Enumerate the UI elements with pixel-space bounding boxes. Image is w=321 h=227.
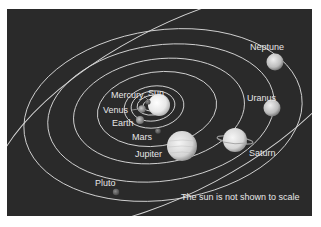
neptune-icon [267, 54, 284, 71]
label-jupiter: Jupiter [135, 149, 162, 159]
label-mercury: Mercury [111, 90, 144, 100]
venus-icon [138, 105, 146, 113]
earth-icon [136, 116, 144, 124]
label-earth: Earth [112, 118, 134, 128]
solar-system-diagram: Sun Mercury Venus Earth Mars Jupiter Sat… [7, 9, 312, 216]
label-neptune: Neptune [250, 42, 284, 52]
label-venus: Venus [103, 105, 128, 115]
label-sun: Sun [148, 88, 164, 98]
mars-icon [155, 128, 161, 134]
mercury-icon [145, 99, 150, 104]
label-uranus: Uranus [247, 93, 276, 103]
label-pluto: Pluto [95, 178, 116, 188]
orbits-and-planets [7, 9, 312, 216]
pluto-icon [113, 189, 119, 195]
scale-note: The sun is not shown to scale [181, 192, 300, 202]
label-mars: Mars [132, 132, 152, 142]
saturn-icon [223, 128, 247, 152]
label-saturn: Saturn [249, 148, 276, 158]
